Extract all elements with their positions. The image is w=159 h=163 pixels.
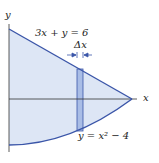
shaded-region xyxy=(9,29,132,145)
line-equation-label: 3x + y = 6 xyxy=(35,28,89,38)
delta-x-arrows xyxy=(67,52,92,58)
delta-x-label: Δx xyxy=(74,40,87,50)
x-axis-label: x xyxy=(143,93,149,103)
y-axis-label: y xyxy=(5,10,11,20)
delta-x-strip xyxy=(77,69,83,131)
parabola-equation-label: y = x² − 4 xyxy=(78,131,129,141)
